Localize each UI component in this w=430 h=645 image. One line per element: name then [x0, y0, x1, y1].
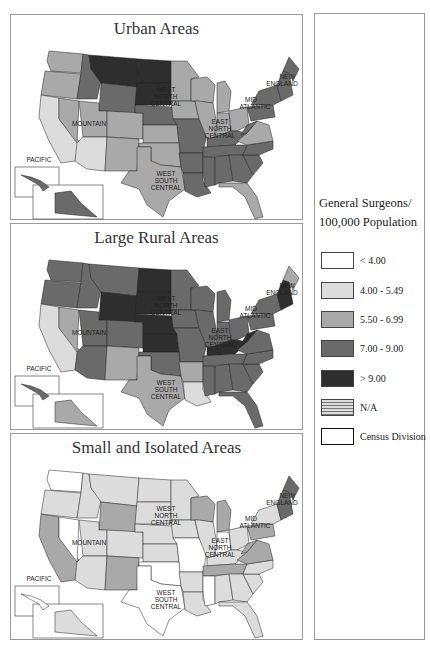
census-division-label: WEST [157, 505, 176, 512]
legend-label: < 4.00 [360, 255, 386, 266]
legend-item-na: N/A [321, 397, 377, 417]
state-ks [143, 125, 179, 143]
legend-title-line2: 100,000 Population [319, 213, 425, 232]
census-division-label: NEW [279, 492, 295, 499]
state-wa [47, 260, 83, 282]
map-panel-small-isolated: Small and Isolated Areas PACIFICMOUNTAIN… [10, 433, 303, 640]
census-division-label: NORTH [155, 93, 178, 100]
legend-swatch [321, 311, 354, 328]
legend-item-census-division: Census Division [321, 426, 426, 446]
legend-label: Census Division [360, 431, 426, 442]
state-or [41, 71, 81, 99]
legend-item-7-9: 7.00 - 9.00 [321, 338, 403, 358]
legend-item-4-549: 4.00 - 5.49 [321, 280, 403, 300]
census-division-label: NORTH [209, 125, 232, 132]
legend-item-gt9: > 9.00 [321, 368, 386, 388]
state-co [107, 111, 143, 139]
state-fl [219, 602, 263, 638]
state-nm [105, 346, 139, 380]
state-fl [219, 392, 263, 428]
state-co [107, 320, 143, 348]
census-division-label: SOUTH [155, 177, 178, 184]
census-division-label: CENTRAL [151, 603, 182, 610]
legend-label: 7.00 - 9.00 [360, 343, 403, 354]
legend-swatch [321, 428, 354, 445]
state-wy [99, 502, 137, 532]
census-division-label: CENTRAL [205, 341, 236, 348]
map-panel-large-rural: Large Rural Areas PACIFICMOUNTAINWESTNOR… [10, 223, 303, 430]
legend-swatch-hatched [321, 399, 354, 416]
census-division-label: ATLANTIC [240, 312, 271, 319]
census-division-label: MOUNTAIN [72, 329, 106, 336]
state-ar [179, 153, 203, 173]
state-nm [105, 556, 139, 590]
census-division-label: EAST [212, 327, 229, 334]
census-division-label: PACIFIC [26, 365, 51, 372]
legend-label: 4.00 - 5.49 [360, 285, 403, 296]
census-division-label: NEW [279, 73, 295, 80]
state-ks [143, 544, 179, 562]
state-ms [203, 576, 215, 606]
state-fl [219, 183, 263, 219]
census-division-label: WEST [157, 170, 176, 177]
census-division-label: CENTRAL [151, 393, 182, 400]
state-wa [47, 470, 83, 492]
census-division-label: NORTH [209, 334, 232, 341]
state-ms [203, 157, 215, 187]
state-az [75, 137, 107, 171]
census-division-label: SOUTH [155, 386, 178, 393]
census-division-label: MOUNTAIN [72, 120, 106, 127]
census-division-label: SOUTH [155, 596, 178, 603]
legend-panel: General Surgeons/ 100,000 Population < 4… [314, 13, 425, 640]
state-ar [179, 572, 203, 592]
state-or [41, 490, 81, 518]
census-division-label: CENTRAL [151, 184, 182, 191]
census-division-label: CENTRAL [205, 551, 236, 558]
census-division-label: EAST [212, 537, 229, 544]
state-mi [217, 290, 231, 322]
census-division-label: ATLANTIC [240, 522, 271, 529]
state-ms [203, 366, 215, 396]
census-division-label: WEST [157, 589, 176, 596]
census-division-label: CENTRAL [205, 132, 236, 139]
legend-swatch [321, 282, 354, 299]
census-division-label: ENGLAND [266, 499, 298, 506]
census-division-label: CENTRAL [151, 309, 182, 316]
census-division-label: ENGLAND [266, 80, 298, 87]
state-nd [137, 59, 171, 83]
legend-label: N/A [360, 402, 377, 413]
census-division-label: ATLANTIC [240, 103, 271, 110]
legend-swatch [321, 252, 354, 269]
state-az [75, 556, 107, 590]
legend-label: > 9.00 [360, 373, 386, 384]
us-choropleth-map: PACIFICMOUNTAINWESTNORTHCENTRALWESTSOUTH… [11, 434, 304, 641]
census-division-label: WEST [157, 86, 176, 93]
census-division-label: NORTH [155, 512, 178, 519]
legend-title-line1: General Surgeons/ [319, 194, 425, 213]
legend-swatch [321, 340, 354, 357]
state-co [107, 530, 143, 558]
census-division-label: NEW [279, 282, 295, 289]
state-nm [105, 137, 139, 171]
census-division-label: PACIFIC [26, 575, 51, 582]
state-wy [99, 83, 137, 113]
state-az [75, 346, 107, 380]
legend-swatch [321, 370, 354, 387]
census-division-label: MID [245, 305, 257, 312]
legend-title: General Surgeons/ 100,000 Population [319, 194, 425, 232]
state-nd [137, 478, 171, 502]
state-wi [191, 77, 215, 103]
state-wy [99, 292, 137, 322]
state-wi [191, 496, 215, 522]
census-division-label: CENTRAL [151, 100, 182, 107]
census-division-label: EAST [212, 118, 229, 125]
state-mi [217, 500, 231, 532]
census-division-label: WEST [157, 379, 176, 386]
state-or [41, 280, 81, 308]
state-nd [137, 268, 171, 292]
census-division-label: ENGLAND [266, 289, 298, 296]
state-mi [217, 81, 231, 113]
legend-item-lt4: < 4.00 [321, 250, 386, 270]
census-division-label: MOUNTAIN [72, 539, 106, 546]
census-division-label: NORTH [155, 302, 178, 309]
